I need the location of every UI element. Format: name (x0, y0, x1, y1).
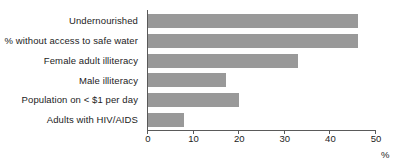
bar (148, 14, 358, 28)
bar (148, 54, 298, 68)
x-axis-line (147, 130, 376, 131)
bar (148, 73, 226, 87)
bar-slot (148, 110, 376, 130)
bar-slot (148, 31, 376, 51)
bar (148, 34, 358, 48)
x-axis-title: % (381, 150, 389, 160)
plot-area (148, 11, 376, 130)
bar-slot (148, 51, 376, 71)
bar-slot (148, 70, 376, 90)
bar-series (148, 11, 376, 130)
x-axis-tick-label: 0 (145, 134, 150, 144)
category-label: Population on < $1 per day (0, 90, 143, 110)
bar (148, 113, 184, 127)
bar-chart: Undernourished % without access to safe … (0, 0, 411, 166)
x-axis-tick-label: 20 (234, 134, 245, 144)
x-axis-tick-label: 30 (280, 134, 291, 144)
x-axis-tick-label: 10 (188, 134, 199, 144)
x-axis-tick-label: 40 (325, 134, 336, 144)
bar (148, 93, 239, 107)
category-label: % without access to safe water (0, 31, 143, 51)
bar-slot (148, 11, 376, 31)
y-axis-line (147, 10, 148, 131)
category-label: Adults with HIV/AIDS (0, 110, 143, 130)
category-axis-labels: Undernourished % without access to safe … (0, 11, 143, 130)
x-axis-tick-label: 50 (371, 134, 382, 144)
category-label: Female adult illiteracy (0, 51, 143, 71)
category-label: Male illiteracy (0, 70, 143, 90)
category-label: Undernourished (0, 11, 143, 31)
bar-slot (148, 90, 376, 110)
